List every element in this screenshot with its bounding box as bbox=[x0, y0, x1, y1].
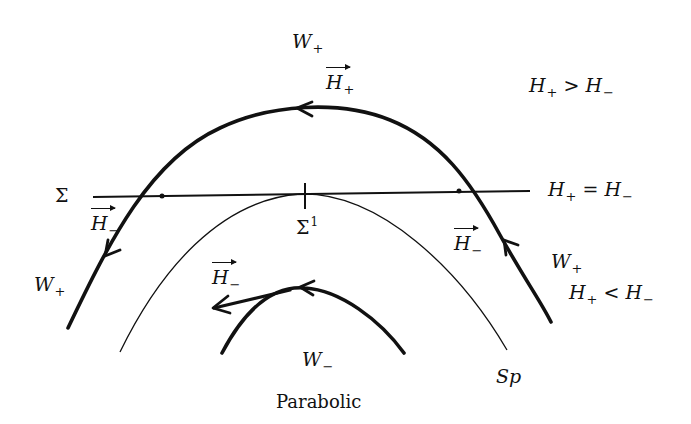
region-label-right: W+ bbox=[551, 252, 582, 271]
cond-equal-rhs: H bbox=[604, 178, 621, 200]
sigma1-symbol: Σ bbox=[296, 216, 309, 238]
condition-greater: H+>H− bbox=[529, 76, 614, 95]
vector-left-base: H bbox=[91, 212, 108, 234]
vector-label-inner: H− bbox=[212, 268, 240, 287]
condition-less: H+<H− bbox=[569, 283, 654, 302]
vector-label-left: H− bbox=[91, 214, 119, 233]
cond-less-lhs: H bbox=[569, 281, 586, 303]
region-right-base: W bbox=[551, 250, 571, 272]
cond-equal-op: = bbox=[582, 178, 598, 200]
region-top-sub: + bbox=[313, 41, 324, 56]
sp-label: Sp bbox=[496, 367, 521, 386]
cond-less-lhs-sub: + bbox=[587, 292, 598, 307]
cond-greater-op: > bbox=[563, 74, 579, 96]
vector-inner-sub: − bbox=[230, 277, 241, 292]
vector-label-right: H− bbox=[454, 234, 482, 253]
cond-less-op: < bbox=[603, 281, 619, 303]
vector-right-sub: − bbox=[472, 243, 483, 258]
cond-less-rhs: H bbox=[625, 281, 642, 303]
vector-top-sub: + bbox=[344, 82, 355, 97]
sigma1-label: Σ1 bbox=[296, 218, 318, 237]
vector-left-sub: − bbox=[109, 223, 120, 238]
region-left-base: W bbox=[34, 273, 54, 295]
diagram-caption: Parabolic bbox=[276, 393, 361, 411]
right-intersection-point bbox=[457, 189, 462, 194]
region-label-top: W+ bbox=[292, 32, 323, 51]
cond-equal-lhs-sub: + bbox=[566, 189, 577, 204]
vector-top-base: H bbox=[326, 71, 343, 93]
region-label-left: W+ bbox=[34, 275, 65, 294]
cond-greater-rhs-sub: − bbox=[603, 85, 614, 100]
region-label-inner: W− bbox=[302, 350, 333, 369]
vector-inner-base: H bbox=[212, 266, 229, 288]
vector-right-base: H bbox=[454, 232, 471, 254]
region-left-sub: + bbox=[55, 284, 66, 299]
overhead-arrow-icon bbox=[212, 262, 236, 263]
cond-less-rhs-sub: − bbox=[643, 292, 654, 307]
overhead-arrow-icon bbox=[326, 67, 350, 68]
region-inner-base: W bbox=[302, 348, 322, 370]
sigma1-superscript: 1 bbox=[310, 215, 318, 229]
cond-greater-lhs-sub: + bbox=[547, 85, 558, 100]
region-top-base: W bbox=[292, 30, 312, 52]
condition-equal: H+=H− bbox=[548, 180, 633, 199]
region-inner-sub: − bbox=[323, 359, 334, 374]
overhead-arrow-icon bbox=[454, 228, 478, 229]
sp-text: Sp bbox=[496, 365, 521, 387]
cond-greater-lhs: H bbox=[529, 74, 546, 96]
sigma-label: Σ bbox=[55, 186, 68, 205]
cond-equal-rhs-sub: − bbox=[622, 189, 633, 204]
overhead-arrow-icon bbox=[91, 208, 115, 209]
caption-text: Parabolic bbox=[276, 391, 361, 412]
inner-trajectory-curve bbox=[222, 288, 404, 353]
cond-equal-lhs: H bbox=[548, 178, 565, 200]
sigma-symbol: Σ bbox=[55, 184, 68, 206]
vector-label-top: H+ bbox=[326, 73, 354, 92]
region-right-sub: + bbox=[572, 261, 583, 276]
left-intersection-point bbox=[160, 194, 165, 199]
cond-greater-rhs: H bbox=[585, 74, 602, 96]
